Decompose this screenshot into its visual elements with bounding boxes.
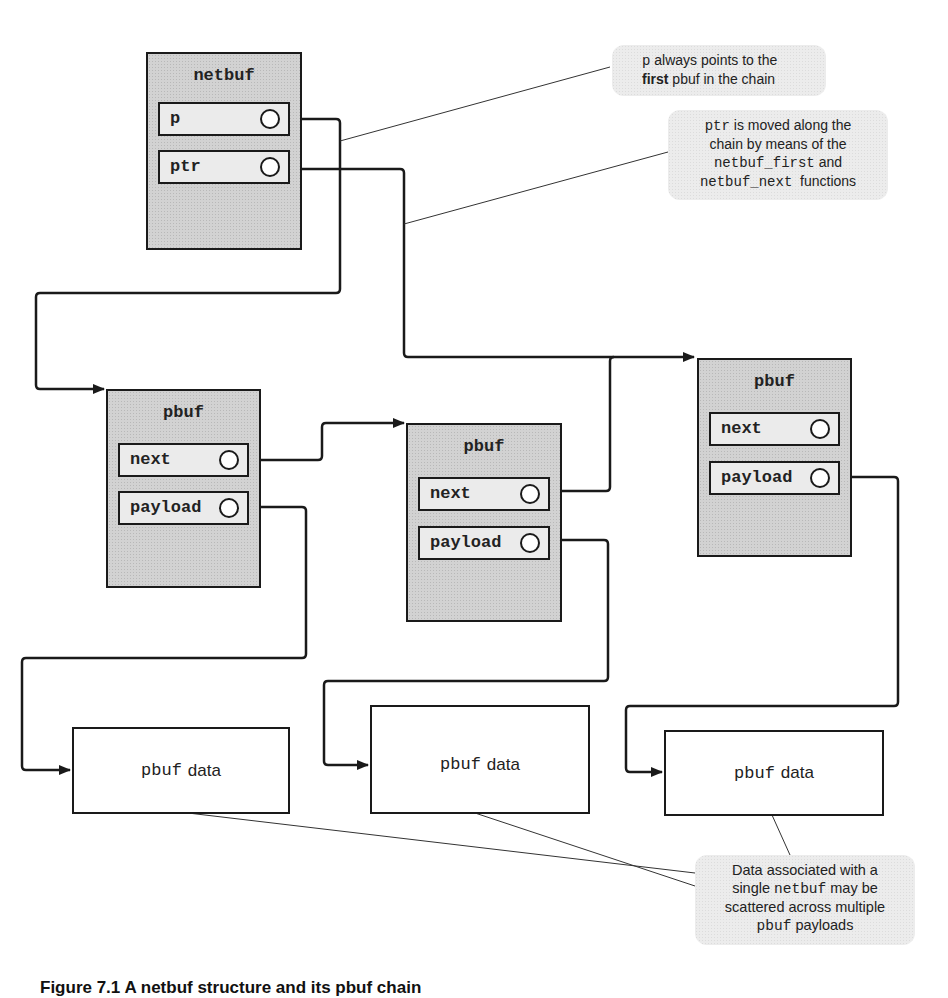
data-code: pbuf: [440, 755, 481, 774]
data-word: data: [781, 763, 814, 783]
pbuf-field-next: next: [118, 443, 249, 477]
p-callout: p always points to the first pbuf in the…: [612, 45, 826, 96]
pbuf-field-next: next: [709, 412, 840, 446]
pointer-dot-icon: [520, 484, 540, 504]
data-code: pbuf: [734, 764, 775, 783]
pointer-dot-icon: [219, 498, 239, 518]
field-label: next: [430, 484, 471, 503]
pointer-dot-icon: [810, 468, 830, 488]
data-callout: Data associated with a single netbuf may…: [695, 855, 915, 945]
p-callout-leader: [340, 67, 610, 141]
pointer-dot-icon: [219, 450, 239, 470]
field-label: next: [721, 419, 762, 438]
callout-text: is moved along the: [730, 117, 851, 133]
pointer-dot-icon: [260, 157, 280, 177]
netbuf-field-ptr: ptr: [158, 150, 290, 184]
data-callout-leader-2: [475, 813, 695, 886]
field-label: p: [170, 109, 180, 128]
callout-text: payloads: [791, 917, 853, 933]
callout-text: always points to the: [650, 52, 777, 68]
data-word: data: [188, 761, 221, 781]
pbuf-field-payload: payload: [709, 461, 840, 495]
pbuf-data-box-1: pbufdata: [72, 727, 290, 814]
callout-text: and: [815, 154, 842, 170]
ptr-pointer-line: [285, 169, 694, 357]
pbuf-struct-1: pbuf next payload: [106, 389, 261, 588]
code-ptr: ptr: [705, 118, 730, 134]
pbuf-title: pbuf: [108, 403, 259, 422]
callout-text: single: [732, 880, 774, 896]
data-callout-leader-1: [188, 813, 695, 873]
callout-text: functions: [792, 173, 856, 189]
data-code: pbuf: [141, 761, 182, 780]
pbuf1-next-line: [242, 423, 404, 460]
netbuf-field-p: p: [158, 102, 290, 136]
pbuf-struct-2: pbuf next payload: [406, 423, 562, 622]
pbuf-title: pbuf: [408, 437, 560, 456]
callout-text: may be: [826, 880, 878, 896]
field-label: next: [130, 450, 171, 469]
code-netbuf-next: netbuf_next: [700, 174, 792, 190]
pbuf-data-box-2: pbufdata: [370, 705, 590, 814]
pbuf-field-payload: payload: [118, 491, 249, 525]
pointer-dot-icon: [260, 109, 280, 129]
code-netbuf-first: netbuf_first: [714, 155, 815, 171]
data-callout-leader-3: [772, 815, 790, 855]
field-label: payload: [130, 498, 201, 517]
ptr-callout-leader: [404, 152, 668, 224]
field-label: ptr: [170, 157, 201, 176]
callout-text: chain by means of the: [676, 135, 880, 153]
ptr-callout: ptr is moved along the chain by means of…: [668, 110, 888, 200]
code-netbuf: netbuf: [774, 881, 826, 897]
pbuf-struct-3: pbuf next payload: [697, 358, 852, 557]
callout-text: scattered across multiple: [703, 898, 907, 916]
figure-caption: Figure 7.1 A netbuf structure and its pb…: [40, 978, 421, 998]
callout-text: Data associated with a: [703, 861, 907, 879]
data-word: data: [487, 755, 520, 775]
pbuf-field-next: next: [418, 477, 550, 511]
pointer-dot-icon: [810, 419, 830, 439]
pointer-dot-icon: [520, 533, 540, 553]
field-label: payload: [430, 533, 501, 552]
pbuf-title: pbuf: [699, 372, 850, 391]
code-pbuf: pbuf: [757, 918, 792, 934]
callout-text: pbuf in the chain: [668, 71, 775, 87]
pbuf-field-payload: payload: [418, 526, 550, 560]
netbuf-title: netbuf: [148, 66, 300, 85]
pbuf-data-box-3: pbufdata: [664, 730, 884, 816]
field-label: payload: [721, 468, 792, 487]
emphasis-first: first: [642, 71, 668, 87]
netbuf-struct: netbuf p ptr: [146, 52, 302, 250]
